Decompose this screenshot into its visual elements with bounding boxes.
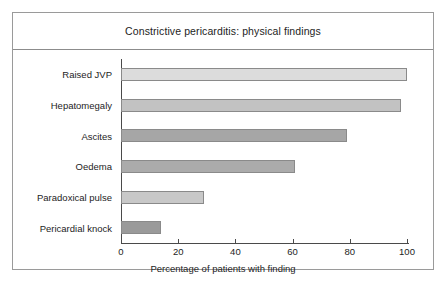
bar <box>121 99 401 112</box>
category-label: Pericardial knock <box>40 222 112 233</box>
bar <box>121 129 347 142</box>
plot-area: Raised JVPHepatomegalyAscitesOedemaParad… <box>121 59 407 243</box>
x-tick <box>350 239 351 243</box>
category-label: Ascites <box>81 130 112 141</box>
bar <box>121 191 204 204</box>
category-label: Hepatomegaly <box>51 100 112 111</box>
category-label: Paradoxical pulse <box>37 192 112 203</box>
x-axis-label: Percentage of patients with finding <box>13 263 433 274</box>
bar <box>121 160 295 173</box>
bar <box>121 68 407 81</box>
x-tick-label: 20 <box>173 246 184 257</box>
x-tick <box>407 239 408 243</box>
bar-row: Paradoxical pulse <box>121 191 407 204</box>
x-tick <box>178 239 179 243</box>
x-tick <box>235 239 236 243</box>
category-label: Raised JVP <box>62 69 112 80</box>
bar-row: Ascites <box>121 129 407 142</box>
bar-row: Hepatomegaly <box>121 99 407 112</box>
x-tick-label: 0 <box>118 246 123 257</box>
bar-row: Oedema <box>121 160 407 173</box>
x-tick <box>121 239 122 243</box>
x-tick-layer: 020406080100 <box>121 243 407 263</box>
x-tick <box>293 239 294 243</box>
x-tick-label: 80 <box>345 246 356 257</box>
x-tick-label: 60 <box>287 246 298 257</box>
category-label: Oedema <box>76 161 112 172</box>
figure-frame: Constrictive pericarditis: physical find… <box>12 12 434 270</box>
plot-band: Raised JVPHepatomegalyAscitesOedemaParad… <box>13 50 433 270</box>
x-tick-label: 40 <box>230 246 241 257</box>
bar <box>121 221 161 234</box>
bar-row: Pericardial knock <box>121 221 407 234</box>
bar-row: Raised JVP <box>121 68 407 81</box>
chart-title: Constrictive pericarditis: physical find… <box>125 25 321 37</box>
title-band: Constrictive pericarditis: physical find… <box>13 13 433 50</box>
x-tick-label: 100 <box>399 246 415 257</box>
